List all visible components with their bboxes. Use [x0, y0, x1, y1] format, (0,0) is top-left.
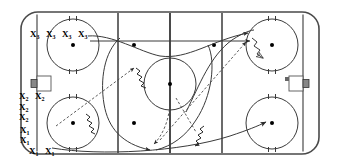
neutral-zone-dot-bottom-left	[132, 121, 136, 125]
hockey-rink-diagram: X3 X3 X3 X3 X2 X2 X2 X2 X1 X1 X1 X1	[0, 0, 340, 165]
